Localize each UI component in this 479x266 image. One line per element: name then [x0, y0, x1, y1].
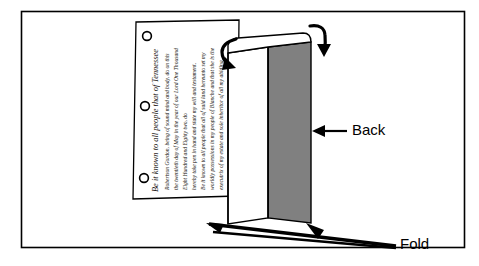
script-line: Robertson Gordon, being of sound mind an…	[164, 53, 170, 191]
gray-back-panel	[268, 42, 311, 223]
front-white-panel	[228, 47, 268, 224]
script-line: the twentieth day of May in the year of …	[173, 48, 179, 190]
punch-hole-icon	[143, 32, 152, 41]
certificate-script-block: Be it known to all people that of Tennes…	[151, 47, 233, 192]
fold-label-text: Fold	[400, 235, 429, 252]
punch-hole-icon	[140, 174, 149, 183]
script-line: Eight Hundred and Eighty two, do	[182, 113, 188, 191]
script-line: hereby take pen in hand and state my wil…	[191, 63, 197, 190]
script-line: Be it known to all people that all of sa…	[200, 52, 206, 190]
back-label-text: Back	[352, 121, 386, 138]
punch-hole-icon	[141, 102, 150, 111]
folded-document-diagram: Be it known to all people that of Tennes…	[0, 0, 479, 266]
figure-root: Be it known to all people that of Tennes…	[0, 0, 479, 266]
label-fold: Fold	[400, 235, 429, 252]
script-line: executrix of my estate and sole inherito…	[218, 60, 224, 190]
script-line: Be it known to all people that of Tennes…	[151, 49, 160, 192]
script-line: worldly possessions in my people of Blan…	[209, 47, 215, 190]
